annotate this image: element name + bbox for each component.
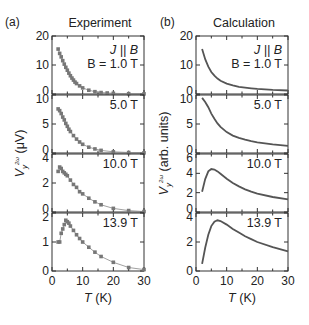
- data-point: [69, 178, 73, 182]
- field-label: 10.0 T: [103, 157, 139, 171]
- x-tick-label: 20: [107, 274, 121, 288]
- subplot-10.0T: 02410.0 T: [42, 151, 145, 216]
- data-point: [93, 90, 97, 94]
- x-tick-label: 10: [220, 274, 234, 288]
- data-point: [93, 250, 97, 254]
- data-point: [62, 118, 66, 122]
- subplot-1.0T: 01020B = 1.0 TJ || B: [36, 29, 146, 98]
- y-axis-label: Vy2ω (arb. units): [157, 112, 173, 196]
- y-tick-label: 1: [42, 235, 49, 249]
- data-point: [112, 150, 116, 154]
- data-point: [127, 209, 131, 213]
- field-label: 13.9 T: [103, 216, 139, 230]
- field-label: 5.0 T: [254, 98, 283, 112]
- x-tick-label: 30: [281, 274, 295, 288]
- data-point: [59, 112, 63, 116]
- data-point: [78, 190, 82, 194]
- data-point: [93, 147, 97, 151]
- data-point: [105, 91, 109, 95]
- data-point: [66, 174, 70, 178]
- data-point: [81, 192, 85, 196]
- calculated-curve: [202, 169, 288, 199]
- data-point: [78, 84, 82, 88]
- x-axis-label: T (K): [228, 291, 256, 305]
- y-tick-label: 2: [42, 210, 49, 224]
- data-point: [59, 55, 63, 59]
- subplot-13.9T: 01213.9 T: [42, 210, 145, 278]
- data-point: [87, 245, 91, 249]
- data-point: [142, 268, 146, 272]
- data-point: [99, 203, 103, 207]
- y-tick-label: 10: [36, 58, 50, 72]
- y-tick-label: 4: [186, 210, 193, 224]
- y-axis-label: Vy2ω (μV): [13, 130, 29, 178]
- subplot-13.9T: 02413.9 T: [186, 210, 288, 278]
- data-point: [112, 207, 116, 211]
- data-point: [69, 130, 73, 134]
- data-point: [72, 134, 76, 138]
- chart-experiment: (a)ExperimentVy2ω (μV)01020B = 1.0 TJ ||…: [5, 15, 151, 305]
- y-tick-label: 20: [36, 29, 50, 43]
- chart-calculation: (b)CalculationVy2ω (arb. units)01020B = …: [157, 15, 295, 305]
- x-tick-label: 20: [251, 274, 265, 288]
- panel-label: (b): [160, 15, 175, 29]
- data-point: [93, 200, 97, 204]
- current-field-annotation: J || B: [253, 43, 282, 57]
- field-label: 10.0 T: [247, 157, 283, 171]
- data-point: [58, 240, 62, 244]
- y-tick-label: 20: [180, 29, 194, 43]
- subplot-5.0T: 05105.0 T: [180, 92, 288, 157]
- x-tick-label: 30: [137, 274, 151, 288]
- y-tick-label: 4: [186, 166, 193, 180]
- figure: (a)ExperimentVy2ω (μV)01020B = 1.0 TJ ||…: [0, 0, 309, 325]
- data-point: [99, 149, 103, 153]
- data-point: [87, 196, 91, 200]
- subplot-1.0T: 01020B = 1.0 TJ || B: [180, 29, 288, 98]
- data-point: [78, 140, 82, 144]
- data-point: [87, 88, 91, 92]
- x-tick-label: 0: [49, 274, 56, 288]
- x-tick-label: 0: [193, 274, 200, 288]
- data-point: [58, 52, 62, 56]
- data-point: [81, 240, 85, 244]
- data-point: [75, 186, 79, 190]
- y-tick-label: 10: [180, 92, 194, 106]
- data-point: [61, 59, 65, 63]
- data-point: [99, 91, 103, 95]
- field-label: B = 1.0 T: [87, 57, 138, 71]
- current-field-annotation: J || B: [109, 43, 138, 57]
- field-label: 13.9 T: [247, 216, 283, 230]
- x-tick-label: 10: [76, 274, 90, 288]
- y-tick-label: 10: [180, 58, 194, 72]
- y-tick-label: 2: [186, 235, 193, 249]
- data-point: [56, 170, 60, 174]
- data-point: [62, 223, 66, 227]
- y-tick-label: 2: [186, 186, 193, 200]
- data-point: [75, 233, 79, 237]
- subplot-10.0T: 024610.0 T: [186, 151, 288, 216]
- chart-title: Calculation: [213, 16, 275, 30]
- y-tick-label: 6: [186, 151, 193, 165]
- field-label: B = 1.0 T: [231, 57, 282, 71]
- panel-label: (a): [5, 15, 20, 29]
- data-point: [81, 86, 85, 90]
- data-point: [72, 183, 76, 187]
- data-point: [62, 62, 66, 66]
- data-point: [87, 145, 91, 149]
- data-point: [59, 232, 63, 236]
- chart-title: Experiment: [68, 16, 132, 30]
- data-point: [81, 143, 85, 147]
- y-tick-label: 4: [42, 151, 49, 165]
- y-tick-label: 2: [42, 176, 49, 190]
- data-point: [99, 255, 103, 259]
- data-point: [75, 82, 79, 86]
- data-point: [69, 224, 73, 228]
- data-point: [127, 266, 131, 270]
- data-point: [75, 137, 79, 141]
- data-point: [112, 261, 116, 265]
- data-point: [72, 229, 76, 233]
- y-tick-label: 10: [36, 92, 50, 106]
- y-tick-label: 5: [42, 117, 49, 131]
- field-label: 5.0 T: [110, 98, 139, 112]
- data-point: [61, 227, 65, 231]
